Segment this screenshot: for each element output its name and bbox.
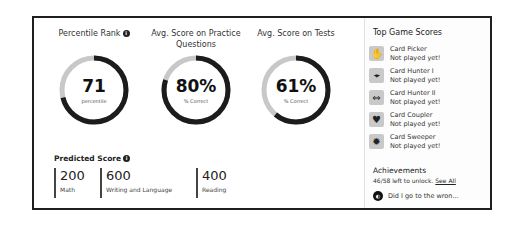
predicted-reading: 400 Reading [196,168,227,198]
stat-sub: % Correct [260,98,332,104]
game-status: Not played yet! [390,54,440,62]
progress-ring: 61% % Correct [260,54,332,126]
predicted-writing: 600 Writing and Language [100,168,172,198]
game-status: Not played yet! [390,76,440,84]
game-status: Not played yet! [390,120,440,128]
stat-tests: Avg. Score on Tests 61% % Correct [246,28,346,126]
predicted-score-list: 200 Math 600 Writing and Language 400 Re… [54,168,374,202]
progress-ring: 80% % Correct [160,54,232,126]
achievement-name: Did I go to the wron... [388,192,459,200]
game-status: Not played yet! [390,142,440,150]
predicted-score: Predicted Scorei 200 Math 600 Writing an… [54,154,374,202]
heart-icon: ♥ [369,112,384,127]
stat-percentile-rank: Percentile Ranki 71 percentile [44,28,144,126]
side-panel: Top Game Scores ✋ Card Picker Not played… [364,18,490,208]
score-value: 600 [106,168,172,183]
stat-practice-questions: Avg. Score on Practice Questions 80% % C… [146,28,246,126]
achievements-count: 46/58 left to unlock. [373,177,433,184]
achievement-item[interactable]: ◐ Did I go to the wron... [373,191,493,203]
stat-title: Percentile Rank [59,29,121,38]
see-all-link[interactable]: See All [435,177,456,184]
score-label: Reading [202,186,227,193]
top-game-scores-title: Top Game Scores [373,28,442,37]
game-item[interactable]: ✋ Card Picker Not played yet! [369,45,489,65]
info-icon[interactable]: i [123,30,130,37]
achievement-badge-icon: ◐ [373,191,383,201]
achievements-title: Achievements [373,166,426,175]
stat-title: Avg. Score on Tests [246,28,346,52]
score-value: 200 [60,168,85,183]
game-item[interactable]: ⌖ Card Hunter I Not played yet! [369,67,489,87]
game-item[interactable]: ♥ Card Coupler Not played yet! [369,111,489,131]
game-name: Card Sweeper [390,133,436,141]
dashboard-card: Percentile Ranki 71 percentile Avg. Scor… [32,16,492,210]
progress-ring: 71 percentile [58,54,130,126]
crosshair-icon: ⌖ [369,68,384,83]
stats-panel: Percentile Ranki 71 percentile Avg. Scor… [34,18,364,208]
score-value: 400 [202,168,227,183]
stat-sub: percentile [58,98,130,104]
stat-sub: % Correct [160,98,232,104]
stat-value: 61% [260,76,332,96]
double-arrow-icon: ⇔ [369,90,384,105]
score-label: Math [60,186,85,193]
game-name: Card Hunter I [390,67,434,75]
predicted-math: 200 Math [54,168,85,198]
info-icon[interactable]: i [123,155,130,162]
score-label: Writing and Language [106,186,172,193]
gear-burst-icon: ✹ [369,134,384,149]
predicted-score-title: Predicted Score [54,154,121,163]
stat-value: 80% [160,76,232,96]
game-name: Card Picker [390,45,427,53]
game-item[interactable]: ✹ Card Sweeper Not played yet! [369,133,489,153]
hand-card-icon: ✋ [369,46,384,61]
game-name: Card Coupler [390,111,433,119]
game-name: Card Hunter II [390,89,436,97]
game-item[interactable]: ⇔ Card Hunter II Not played yet! [369,89,489,109]
game-status: Not played yet! [390,98,440,106]
stat-value: 71 [58,76,130,96]
stat-title: Avg. Score on Practice Questions [146,28,246,52]
